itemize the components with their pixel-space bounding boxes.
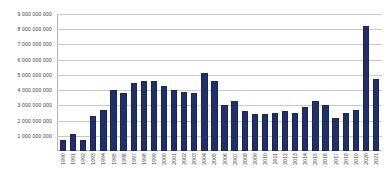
x-label-slot: 2016 (320, 152, 330, 193)
y-axis-tick-label: 2 000 000 000 (17, 118, 52, 124)
bar-slot (310, 14, 320, 151)
bar[interactable] (242, 111, 248, 151)
x-label-slot: 2009 (250, 152, 260, 193)
bar[interactable] (70, 134, 76, 151)
bar[interactable] (373, 79, 379, 151)
bar-slot (270, 14, 280, 151)
y-axis-tick-label: 9 000 000 000 (17, 11, 52, 17)
x-axis-tick-label: 2004 (201, 153, 207, 165)
x-label-slot: 2005 (209, 152, 219, 193)
x-label-slot: 2008 (240, 152, 250, 193)
bar[interactable] (80, 140, 86, 151)
bar-slot (179, 14, 189, 151)
bar[interactable] (131, 83, 137, 152)
x-label-slot: 1997 (129, 152, 139, 193)
bar[interactable] (211, 81, 217, 151)
bar-slot (169, 14, 179, 151)
x-axis-tick-label: 2000 (161, 153, 167, 165)
x-axis-tick-label: 1997 (131, 153, 137, 165)
x-axis-tick-label: 2008 (242, 153, 248, 165)
bar-slot (199, 14, 209, 151)
x-axis-labels: 1990199119921993199419951996199719981999… (57, 152, 382, 193)
y-axis-tick-label: 5 000 000 000 (17, 72, 52, 78)
bar[interactable] (191, 93, 197, 151)
x-label-slot: 2015 (310, 152, 320, 193)
y-axis-tick-label: 6 000 000 000 (17, 57, 52, 63)
bar-slot (189, 14, 199, 151)
x-axis-tick-label: 1995 (111, 153, 117, 165)
x-axis-tick-label: 1998 (141, 153, 147, 165)
bar[interactable] (90, 116, 96, 151)
x-axis-tick-label: 1994 (100, 153, 106, 165)
bar-slot (240, 14, 250, 151)
bar-slot (98, 14, 108, 151)
x-axis-tick-label: 2011 (272, 153, 278, 164)
bar[interactable] (272, 113, 278, 151)
bar[interactable] (60, 140, 66, 151)
x-axis-tick-label: 1993 (90, 153, 96, 165)
x-label-slot: 1998 (139, 152, 149, 193)
bar[interactable] (221, 105, 227, 151)
x-axis-tick-label: 2020 (363, 153, 369, 165)
bar[interactable] (181, 92, 187, 151)
bar[interactable] (312, 101, 318, 151)
bar[interactable] (171, 90, 177, 151)
x-label-slot: 2014 (300, 152, 310, 193)
x-label-slot: 2011 (270, 152, 280, 193)
x-axis-tick-label: 2005 (211, 153, 217, 165)
x-axis-tick-label: 2021 (373, 153, 379, 165)
bar-slot (320, 14, 330, 151)
x-label-slot: 1992 (78, 152, 88, 193)
bar[interactable] (141, 81, 147, 151)
y-axis-tick-label: 7 000 000 000 (17, 41, 52, 47)
bar[interactable] (252, 114, 258, 151)
bar[interactable] (262, 114, 268, 151)
x-axis-tick-label: 1990 (60, 153, 66, 165)
x-axis-tick-label: 2001 (171, 153, 177, 165)
x-axis-tick-label: 2006 (222, 153, 228, 165)
x-label-slot: 1993 (88, 152, 98, 193)
bar[interactable] (343, 113, 349, 151)
x-axis-tick-label: 1991 (70, 153, 76, 165)
x-axis-tick-label: 2009 (252, 153, 258, 165)
bar-slot (209, 14, 219, 151)
bar[interactable] (363, 26, 369, 151)
bar-slot (159, 14, 169, 151)
bar[interactable] (110, 90, 116, 151)
bar[interactable] (231, 101, 237, 151)
bar[interactable] (322, 105, 328, 151)
bar-slot (361, 14, 371, 151)
plot-area (57, 14, 382, 151)
x-label-slot: 1996 (119, 152, 129, 193)
bar[interactable] (161, 86, 167, 151)
bar[interactable] (282, 111, 288, 151)
bar[interactable] (100, 110, 106, 151)
bar[interactable] (302, 107, 308, 151)
bar-slot (149, 14, 159, 151)
bar-chart: 1 000 000 0002 000 000 0003 000 000 0004… (0, 0, 387, 193)
bar-slot (250, 14, 260, 151)
bar-slot (371, 14, 381, 151)
x-label-slot: 2017 (331, 152, 341, 193)
bar-slot (108, 14, 118, 151)
y-axis-tick-label: 4 000 000 000 (17, 87, 52, 93)
x-axis-tick-label: 1992 (80, 153, 86, 165)
bar[interactable] (332, 118, 338, 151)
x-axis-tick-label: 2015 (312, 153, 318, 165)
bar[interactable] (292, 113, 298, 151)
y-axis-tick-label: 8 000 000 000 (17, 26, 52, 32)
bar[interactable] (151, 81, 157, 151)
bar-series (57, 14, 382, 151)
bar-slot (78, 14, 88, 151)
bar[interactable] (120, 93, 126, 151)
bar-slot (341, 14, 351, 151)
bar[interactable] (201, 73, 207, 151)
y-axis-labels: 1 000 000 0002 000 000 0003 000 000 0004… (0, 14, 55, 151)
bar[interactable] (353, 110, 359, 151)
bar-slot (68, 14, 78, 151)
x-label-slot: 2013 (290, 152, 300, 193)
bar-slot (88, 14, 98, 151)
x-label-slot: 2006 (220, 152, 230, 193)
bar-slot (351, 14, 361, 151)
x-label-slot: 2004 (199, 152, 209, 193)
